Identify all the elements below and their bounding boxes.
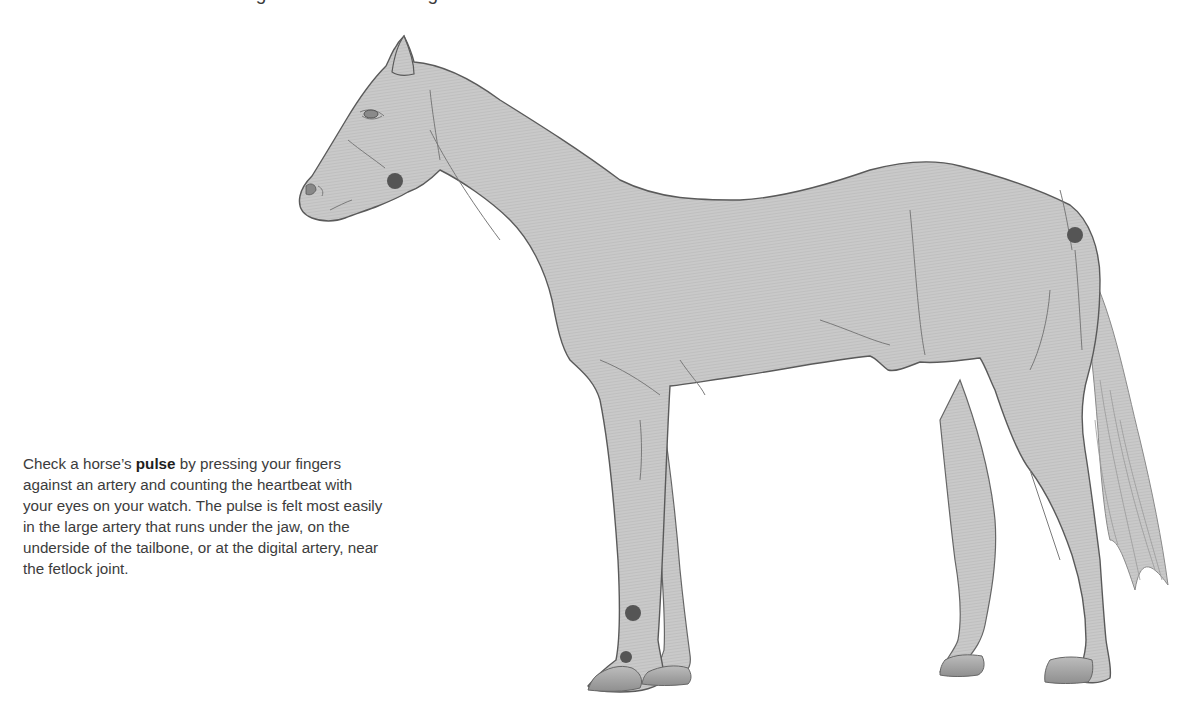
caption-text-after: by pressing your fingers against an arte…	[23, 455, 382, 577]
horse-ear	[392, 36, 414, 75]
hind-hoof-far	[940, 655, 984, 677]
horse-far-hind-leg	[940, 380, 996, 674]
front-hoof-near	[588, 666, 642, 691]
pulse-point-tailbone	[1067, 227, 1083, 243]
caption-bold-term: pulse	[136, 455, 176, 472]
hind-hoof-near	[1045, 657, 1093, 684]
pulse-point-digital-artery	[625, 605, 641, 621]
horse-illustration	[0, 0, 1199, 714]
pulse-point-fetlock	[620, 651, 632, 663]
horse-eye	[364, 110, 378, 118]
pulse-point-jaw	[387, 173, 403, 189]
pulse-caption: Check a horse’s pulse by pressing your f…	[23, 453, 383, 579]
caption-text-before: Check a horse’s	[23, 455, 136, 472]
